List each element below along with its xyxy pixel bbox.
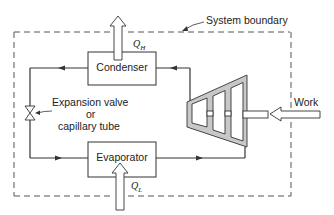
work-in-arrow-icon <box>270 107 320 121</box>
refrigeration-diagram <box>0 0 334 215</box>
evaporator-label: Evaporator <box>88 151 156 163</box>
system-boundary-label: System boundary <box>206 14 288 26</box>
expansion-valve-icon <box>25 106 35 120</box>
flow-arrow-icon <box>58 66 65 71</box>
heat-in-arrow-icon <box>112 163 128 210</box>
compressor-icon <box>187 75 268 147</box>
q-low-label: QL <box>131 180 142 194</box>
expansion-valve-label-line1: Expansion valve <box>52 96 128 108</box>
q-high-label: QH <box>133 38 145 52</box>
work-label: Work <box>294 96 318 108</box>
flow-arrow-icon <box>55 156 62 161</box>
condenser-label: Condenser <box>88 61 156 73</box>
expansion-valve-label-line3: capillary tube <box>58 120 120 132</box>
expansion-valve-label-line2: or <box>86 108 95 120</box>
flow-arrow-icon <box>170 66 177 71</box>
flow-arrow-icon <box>196 156 203 161</box>
